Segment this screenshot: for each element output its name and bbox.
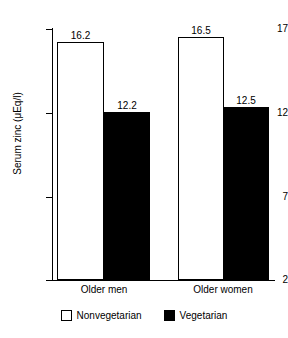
bar-older-men-nonvegetarian: 16.2 [57,42,104,280]
legend-item-vegetarian: Vegetarian [164,310,228,321]
bar-chart: 17 12 7 2 Serum zinc (μEq/l) 16.2 12.2 1… [0,0,288,338]
category-label-older-men: Older men [57,284,151,296]
legend-swatch-filled-icon [164,310,175,321]
y-axis-tick-17 [46,29,53,30]
bar-value-label-older-women-vegetarian: 12.5 [236,96,255,106]
y-axis-tick-7 [46,197,53,198]
x-axis-line [52,280,275,281]
y-axis-tick-2 [46,280,53,281]
plot-area: 16.2 12.2 16.5 12.5 [53,28,275,280]
bar-older-women-vegetarian: 12.5 [223,107,269,280]
legend-swatch-open-icon [61,310,72,321]
bar-value-label-older-men-nonvegetarian: 16.2 [71,31,90,41]
bar-value-label-older-men-vegetarian: 12.2 [117,101,136,111]
legend-item-nonvegetarian: Nonvegetarian [61,310,142,321]
y-axis-tick-12 [46,113,53,114]
legend-label-nonvegetarian: Nonvegetarian [77,310,142,321]
chart-legend: Nonvegetarian Vegetarian [0,310,288,321]
bar-older-men-vegetarian: 12.2 [104,112,150,280]
category-label-older-women: Older women [176,284,270,296]
y-axis-title: Serum zinc (μEq/l) [12,64,23,204]
bar-value-label-older-women-nonvegetarian: 16.5 [191,26,210,36]
legend-label-vegetarian: Vegetarian [180,310,228,321]
bar-older-women-nonvegetarian: 16.5 [178,37,224,280]
